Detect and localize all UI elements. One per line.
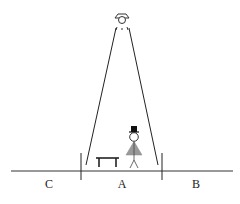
bench-icon — [96, 158, 119, 167]
lamp-icon — [115, 14, 129, 30]
light-beam — [86, 28, 158, 165]
person-icon — [126, 126, 142, 168]
label-c: C — [45, 177, 53, 192]
label-a: A — [118, 177, 127, 192]
stage-diagram — [0, 0, 240, 204]
label-b: B — [192, 177, 200, 192]
